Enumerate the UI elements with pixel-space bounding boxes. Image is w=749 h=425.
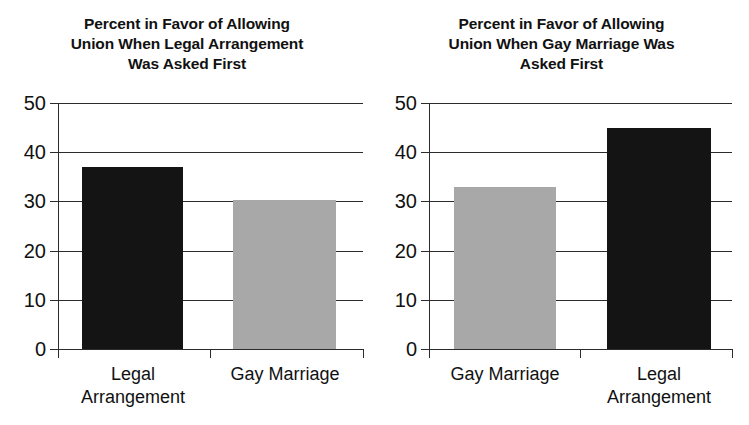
y-tick-mark	[50, 152, 58, 153]
y-tick-mark	[50, 201, 58, 202]
bar-legal-arrangement	[607, 128, 711, 349]
chart-panel-left: Percent in Favor of Allowing Union When …	[0, 0, 374, 425]
y-tick-mark	[50, 300, 58, 301]
y-tick-label: 40	[24, 142, 46, 162]
y-tick-label: 40	[395, 142, 417, 162]
x-axis-label-legal-arrangement: Legal Arrangement	[81, 363, 185, 409]
x-label-line: Legal	[81, 363, 185, 386]
y-axis-line	[58, 103, 59, 349]
y-tick-label: 50	[24, 93, 46, 113]
x-label-line: Gay Marriage	[450, 363, 559, 386]
bar-gay-marriage	[454, 187, 556, 349]
chart-panel-right: Percent in Favor of Allowing Union When …	[374, 0, 749, 425]
x-tick-mark	[580, 349, 581, 358]
y-tick-label: 0	[406, 339, 417, 359]
x-label-line: Arrangement	[607, 386, 711, 409]
y-tick-mark	[421, 103, 429, 104]
bar-chart-figure: Percent in Favor of Allowing Union When …	[0, 0, 749, 425]
plot-area-left: 50 40 30 20 10 0 Legal Arrangement	[58, 103, 363, 349]
y-tick-label: 30	[24, 191, 46, 211]
x-axis-label-gay-marriage: Gay Marriage	[230, 363, 339, 386]
y-tick-mark	[421, 349, 429, 350]
plot-area-right: 50 40 30 20 10 0 Gay Marriage Legal Arra…	[429, 103, 732, 349]
x-axis-label-legal-arrangement: Legal Arrangement	[607, 363, 711, 409]
gridline-50	[58, 103, 363, 104]
x-tick-mark	[210, 349, 211, 358]
plot-wrapper-right: 50 40 30 20 10 0 Gay Marriage Legal Arra…	[374, 0, 749, 425]
y-axis-line	[429, 103, 430, 349]
y-tick-label: 20	[24, 241, 46, 261]
x-label-line: Arrangement	[81, 386, 185, 409]
x-tick-mark	[58, 349, 59, 358]
gridline-40	[58, 152, 363, 153]
y-tick-mark	[421, 300, 429, 301]
x-label-line: Legal	[607, 363, 711, 386]
y-tick-mark	[50, 251, 58, 252]
x-tick-mark	[363, 349, 364, 358]
y-tick-label: 10	[395, 290, 417, 310]
y-tick-label: 30	[395, 191, 417, 211]
y-tick-mark	[50, 349, 58, 350]
y-tick-mark	[421, 152, 429, 153]
x-label-line: Gay Marriage	[230, 363, 339, 386]
bar-gay-marriage	[233, 200, 336, 349]
y-tick-mark	[421, 201, 429, 202]
y-tick-label: 20	[395, 241, 417, 261]
bar-legal-arrangement	[82, 167, 183, 349]
y-tick-mark	[421, 251, 429, 252]
plot-wrapper-left: 50 40 30 20 10 0 Legal Arrangement	[0, 0, 374, 425]
x-axis-label-gay-marriage: Gay Marriage	[450, 363, 559, 386]
y-tick-label: 0	[35, 339, 46, 359]
x-tick-mark	[429, 349, 430, 358]
x-tick-mark	[732, 349, 733, 358]
gridline-50	[429, 103, 732, 104]
y-tick-label: 50	[395, 93, 417, 113]
y-tick-label: 10	[24, 290, 46, 310]
y-tick-mark	[50, 103, 58, 104]
